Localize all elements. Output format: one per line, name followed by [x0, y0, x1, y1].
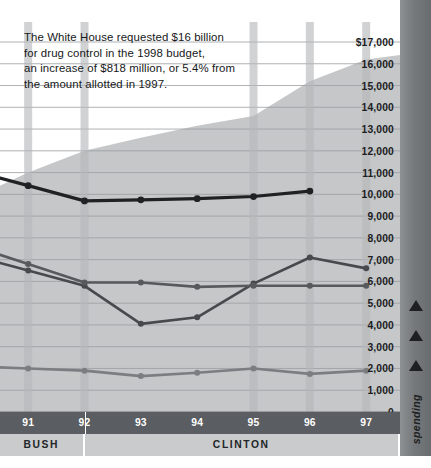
data-point	[25, 365, 31, 371]
y-tick-label: 7,000	[367, 254, 394, 265]
data-point	[137, 196, 144, 203]
data-point	[306, 188, 313, 195]
y-axis-labels: $17,00016,00015,00014,00013,00012,00011,…	[340, 22, 398, 412]
chart-figure: The White House requested $16 billion fo…	[0, 0, 431, 468]
data-point	[25, 261, 31, 267]
caption-block: The White House requested $16 billion fo…	[24, 30, 274, 92]
caption-line-2: for drug control in the 1998 budget,	[24, 46, 274, 62]
x-tick-label-95: 95	[248, 412, 260, 434]
data-point	[138, 321, 144, 327]
y-tick-label: 14,000	[362, 102, 394, 113]
y-tick-label: 16,000	[362, 58, 394, 69]
rail-bottom-filler	[400, 456, 431, 468]
y-tick-label: 11,000	[362, 167, 394, 178]
y-tick-label: $17,000	[356, 37, 394, 48]
y-tick-label: 15,000	[362, 80, 394, 91]
spending-rail: spending	[400, 0, 431, 456]
year-band	[306, 22, 314, 412]
x-tick-label-91: 91	[22, 412, 34, 434]
data-point	[25, 182, 32, 189]
term-gap	[83, 434, 85, 456]
data-point	[307, 371, 313, 377]
up-arrow-icon	[409, 330, 423, 341]
x-tick-label-94: 94	[191, 412, 203, 434]
data-point	[307, 254, 313, 260]
caption-line-1: The White House requested $16 billion	[24, 30, 274, 46]
data-point	[194, 284, 200, 290]
x-tick-label-93: 93	[135, 412, 147, 434]
up-arrow-icon	[409, 300, 423, 311]
y-tick-label: 1,000	[367, 385, 394, 396]
caption-line-4: the amount allotted in 1997.	[24, 77, 274, 93]
president-bar: BUSHCLINTON	[0, 434, 400, 456]
bottom-filler	[0, 456, 400, 468]
data-point	[251, 365, 257, 371]
data-point	[251, 283, 257, 289]
y-tick-label: 10,000	[362, 189, 394, 200]
president-term-clinton: CLINTON	[85, 434, 398, 456]
data-point	[82, 280, 88, 286]
data-point	[82, 368, 88, 374]
y-tick-label: 2,000	[367, 363, 394, 374]
data-point	[194, 314, 200, 320]
data-point	[194, 370, 200, 376]
data-point	[307, 283, 313, 289]
caption-line-3: an increase of $818 million, or 5.4% fro…	[24, 61, 274, 77]
data-point	[138, 280, 144, 286]
y-tick-label: 4,000	[367, 319, 394, 330]
up-arrow-icon	[409, 360, 423, 371]
y-tick-label: 9,000	[367, 211, 394, 222]
y-tick-label: 8,000	[367, 232, 394, 243]
y-tick-label: 5,000	[367, 298, 394, 309]
y-tick-label: 3,000	[367, 341, 394, 352]
data-point	[250, 193, 257, 200]
data-point	[81, 197, 88, 204]
term-divider	[85, 412, 86, 434]
spending-label: spending	[410, 394, 422, 444]
x-tick-label-97: 97	[360, 412, 372, 434]
y-tick-label: 13,000	[362, 124, 394, 135]
y-tick-label: 6,000	[367, 276, 394, 287]
x-axis-bar: 91929394959697	[0, 412, 400, 434]
president-term-bush: BUSH	[0, 434, 83, 456]
y-tick-label: 12,000	[362, 145, 394, 156]
data-point	[138, 373, 144, 379]
data-point	[194, 195, 201, 202]
data-point	[25, 268, 31, 274]
x-tick-label-96: 96	[304, 412, 316, 434]
